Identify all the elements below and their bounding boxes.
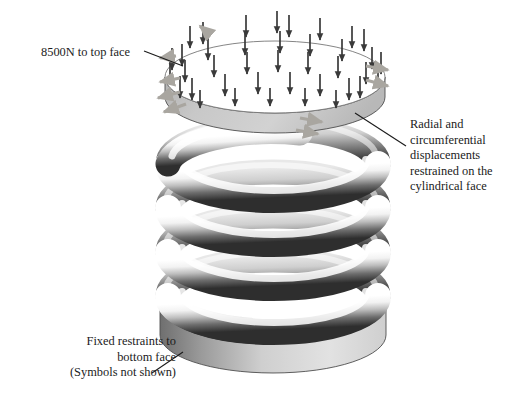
radial-annotation-line-1: Radial and — [410, 117, 493, 133]
radial-annotation-line-3: displacements — [410, 148, 493, 164]
fixed-restraint-annotation: Fixed restraints to bottom face (Symbols… — [26, 334, 176, 381]
restraint-arrow — [200, 26, 208, 33]
top-plate-top-face — [165, 41, 385, 113]
top-face-plate — [165, 41, 385, 133]
load-leader-line — [144, 51, 183, 66]
coil-top-transition — [168, 132, 300, 164]
radial-restraint-annotation: Radial and circumferential displacements… — [410, 117, 493, 195]
fixed-annotation-line-3: (Symbols not shown) — [26, 365, 176, 381]
figure-canvas: 8500N to top face Radial and circumferen… — [0, 0, 531, 401]
fixed-annotation-line-2: bottom face — [26, 350, 176, 366]
fixed-annotation-line-1: Fixed restraints to — [26, 334, 176, 350]
radial-annotation-line-2: circumferential — [410, 133, 493, 149]
radial-annotation-line-4: restrained on the — [410, 164, 493, 180]
load-annotation-line-1: 8500N to top face — [41, 45, 130, 61]
radial-annotation-line-5: cylindrical face — [410, 179, 493, 195]
load-annotation: 8500N to top face — [41, 45, 130, 61]
